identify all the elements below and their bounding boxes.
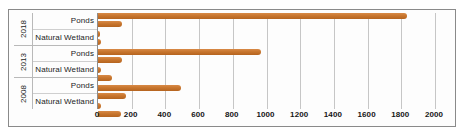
year-group-2013: 2013PondsNatural Wetland bbox=[14, 45, 97, 77]
year-label: 2013 bbox=[19, 52, 28, 70]
category-label: Ponds bbox=[33, 46, 97, 61]
year-label-cell: 2018 bbox=[14, 13, 33, 45]
bar bbox=[98, 85, 181, 91]
bar-row bbox=[98, 93, 435, 101]
bar-row bbox=[98, 67, 435, 75]
category-label-cell: PondsNatural Wetland bbox=[33, 78, 97, 109]
year-group-2008: 2008PondsNatural Wetland bbox=[14, 77, 97, 109]
x-axis-tick-labels: 0200400600800100012001400160018002000 bbox=[97, 110, 435, 124]
year-label-cell: 2008 bbox=[14, 78, 33, 109]
year-label: 2008 bbox=[19, 84, 28, 102]
bar bbox=[98, 13, 407, 19]
axis-label-gutter: 2018PondsNatural Wetland2013PondsNatural… bbox=[14, 13, 97, 109]
category-label: Natural Wetland bbox=[33, 61, 97, 77]
bar bbox=[98, 67, 101, 73]
bar-row bbox=[98, 75, 435, 83]
chart-figure: 2018PondsNatural Wetland2013PondsNatural… bbox=[0, 0, 464, 136]
category-label: Natural Wetland bbox=[33, 29, 97, 46]
x-tick-label: 200 bbox=[124, 110, 138, 119]
x-tick-label: 1600 bbox=[357, 110, 375, 119]
bar-row bbox=[98, 31, 435, 39]
bar-row bbox=[98, 85, 435, 93]
x-tick-label: 1800 bbox=[391, 110, 409, 119]
bar-row bbox=[98, 13, 435, 21]
bar bbox=[98, 21, 122, 27]
bar bbox=[98, 31, 100, 37]
bar bbox=[98, 49, 261, 55]
bar bbox=[98, 103, 101, 109]
x-tick-label: 0 bbox=[95, 110, 100, 119]
x-tick-label: 1400 bbox=[324, 110, 342, 119]
x-tick-label: 400 bbox=[158, 110, 172, 119]
year-label-cell: 2013 bbox=[14, 46, 33, 77]
bar bbox=[98, 57, 122, 63]
category-label: Natural Wetland bbox=[33, 93, 97, 109]
x-tick-label: 2000 bbox=[425, 110, 443, 119]
bar bbox=[98, 39, 101, 45]
bar bbox=[98, 93, 126, 99]
category-label: Ponds bbox=[33, 78, 97, 93]
x-tick-label: 600 bbox=[191, 110, 205, 119]
x-tick-label: 1000 bbox=[256, 110, 274, 119]
x-tick-label: 1200 bbox=[290, 110, 308, 119]
gridline bbox=[435, 13, 436, 109]
category-label: Ponds bbox=[33, 13, 97, 29]
x-tick-label: 800 bbox=[225, 110, 239, 119]
bar bbox=[98, 75, 112, 81]
bar-row bbox=[98, 21, 435, 29]
plot-area bbox=[97, 13, 435, 109]
category-label-cell: PondsNatural Wetland bbox=[33, 13, 97, 45]
year-label: 2018 bbox=[19, 20, 28, 38]
year-group-2018: 2018PondsNatural Wetland bbox=[14, 13, 97, 45]
bar-row bbox=[98, 57, 435, 65]
bar-row bbox=[98, 49, 435, 57]
category-label-cell: PondsNatural Wetland bbox=[33, 46, 97, 77]
bar-row bbox=[98, 39, 435, 47]
